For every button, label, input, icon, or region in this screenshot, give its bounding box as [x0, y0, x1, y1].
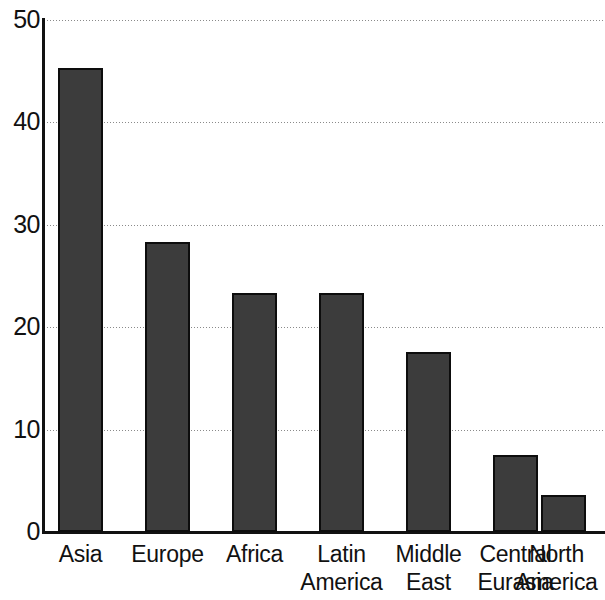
bar-africa[interactable] [232, 293, 277, 532]
bar-slot-north-america [541, 20, 586, 532]
bar-slot-africa [232, 20, 277, 532]
bar-latin-america[interactable] [319, 293, 364, 532]
y-axis-tick-labels: 50 40 30 20 10 0 [0, 20, 40, 532]
bar-slot-central-eurasia [493, 20, 538, 532]
y-tick-label-0: 0 [2, 519, 40, 544]
category-label-europe: Europe [125, 540, 210, 568]
category-label-middle-east: Middle East [386, 540, 471, 596]
bar-europe[interactable] [145, 242, 190, 532]
bar-north-america[interactable] [541, 495, 586, 532]
bars-layer [44, 20, 605, 532]
category-label-north-america-line2: America [508, 568, 605, 596]
bar-asia[interactable] [58, 68, 103, 532]
category-label-africa-line1: Africa [226, 541, 283, 567]
category-label-latin-america: Latin America [299, 540, 384, 596]
y-tick-label-40: 40 [2, 109, 40, 134]
category-label-asia: Asia [38, 540, 123, 568]
bar-middle-east[interactable] [406, 352, 451, 532]
category-label-north-america: North America [508, 540, 605, 596]
category-label-africa: Africa [212, 540, 297, 568]
bar-slot-latin-america [319, 20, 364, 532]
category-label-north-america-line1: North [529, 541, 584, 567]
bar-slot-asia [58, 20, 103, 532]
category-label-middle-east-line1: Middle [396, 541, 462, 567]
category-label-europe-line1: Europe [131, 541, 203, 567]
x-axis-category-labels: Asia Europe Africa Latin America Middle … [44, 540, 605, 600]
category-label-latin-america-line1: Latin [317, 541, 365, 567]
y-tick-label-50: 50 [2, 7, 40, 32]
category-label-latin-america-line2: America [299, 568, 384, 596]
y-tick-label-10: 10 [2, 417, 40, 442]
category-label-middle-east-line2: East [386, 568, 471, 596]
category-label-asia-line1: Asia [59, 541, 103, 567]
y-tick-label-20: 20 [2, 314, 40, 339]
bar-chart-figure: 50 40 30 20 10 0 [0, 0, 605, 600]
bar-slot-europe [145, 20, 190, 532]
y-tick-label-30: 30 [2, 212, 40, 237]
bar-central-eurasia[interactable] [493, 455, 538, 532]
bar-slot-middle-east [406, 20, 451, 532]
